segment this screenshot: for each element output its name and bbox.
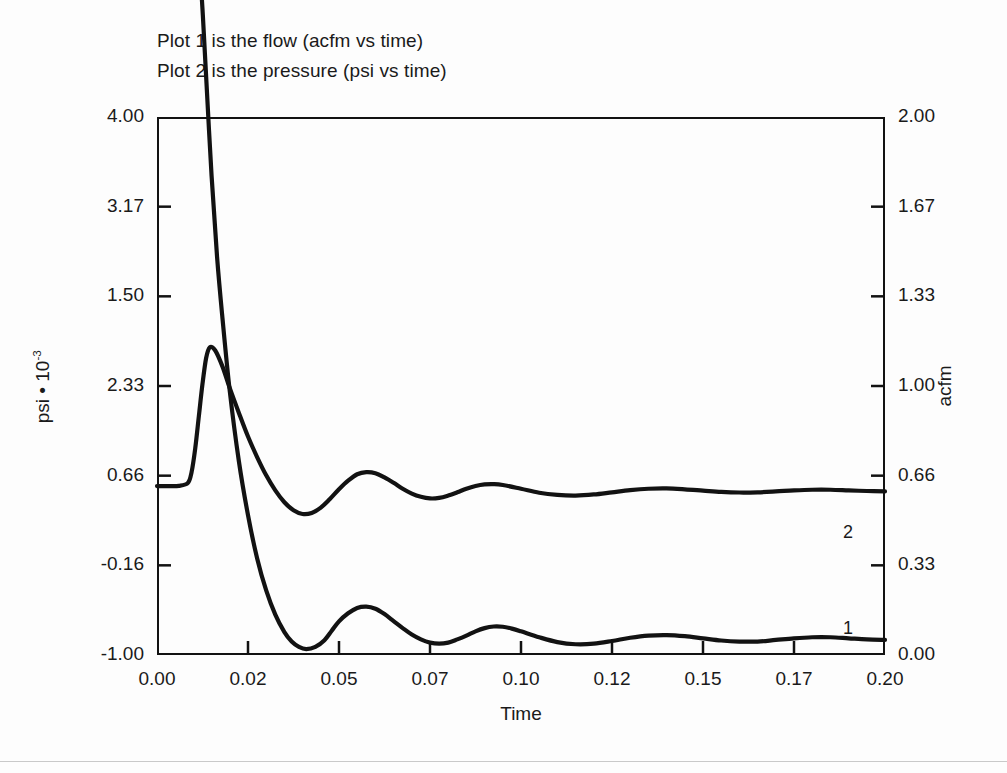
left-tick-label-4: 0.66: [40, 464, 144, 486]
right-tick-label-1: 1.67: [898, 195, 988, 217]
left-tick-label-3: 2.33: [40, 374, 144, 396]
x-tick-label-5: 0.12: [567, 668, 657, 690]
page-divider: [0, 761, 1007, 762]
left-tick-label-6: -1.00: [40, 643, 144, 665]
right-tick-label-6: 0.00: [898, 643, 988, 665]
left-tick-label-1: 3.17: [40, 195, 144, 217]
right-tick-label-0: 2.00: [898, 105, 988, 127]
page-canvas: Plot 1 is the flow (acfm vs time) Plot 2…: [0, 0, 1007, 773]
legend-line-plot1: Plot 1 is the flow (acfm vs time): [157, 26, 677, 56]
legend-annotations: Plot 1 is the flow (acfm vs time) Plot 2…: [157, 26, 677, 86]
series-label-pressure: 2: [843, 522, 853, 543]
plot-frame: [157, 117, 885, 655]
x-tick-label-7: 0.17: [749, 668, 839, 690]
right-tick-label-2: 1.33: [898, 284, 988, 306]
x-axis-title: Time: [421, 703, 621, 725]
right-tick-label-5: 0.33: [898, 553, 988, 575]
x-tick-label-8: 0.20: [840, 668, 930, 690]
x-tick-label-6: 0.15: [658, 668, 748, 690]
y-axis-title-left-text: psi • 10: [32, 361, 53, 424]
legend-line-plot2: Plot 2 is the pressure (psi vs time): [157, 56, 677, 86]
right-tick-label-4: 0.66: [898, 464, 988, 486]
y-axis-title-right: acfm: [934, 326, 956, 446]
x-tick-label-4: 0.10: [476, 668, 566, 690]
x-tick-label-3: 0.07: [385, 668, 475, 690]
y-axis-title-left-exponent: -3: [30, 350, 43, 360]
x-tick-label-0: 0.00: [112, 668, 202, 690]
x-tick-label-2: 0.05: [294, 668, 384, 690]
left-tick-label-2: 1.50: [40, 284, 144, 306]
left-tick-label-5: -0.16: [40, 553, 144, 575]
x-tick-label-1: 0.02: [203, 668, 293, 690]
y-axis-title-left: psi • 10-3: [30, 307, 53, 467]
series-label-flow: 1: [843, 618, 853, 639]
left-tick-label-0: 4.00: [40, 105, 144, 127]
